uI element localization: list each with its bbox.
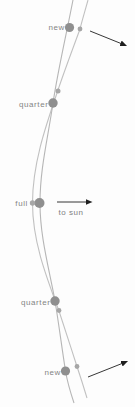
phase-label-quarter-bottom: quarter (21, 298, 51, 307)
earth-circle-full (35, 198, 45, 208)
phase-label-new-bottom: new (45, 368, 61, 377)
moon-phases-diagram: newquarterfullquarternewto sun (0, 0, 135, 407)
moon-dot-quarter (56, 89, 61, 94)
earth-circle-quarter (48, 98, 57, 107)
moon-dot-quarter (57, 308, 62, 313)
moon-dot-new (75, 364, 80, 369)
sun-direction-top-arrow-icon (90, 31, 121, 44)
earth-circle-new (65, 23, 74, 32)
phase-label-quarter-top: quarter (19, 100, 49, 109)
orbit-diagram-canvas: newquarterfullquarternewto sun (0, 0, 135, 407)
earth-circle-new (61, 366, 70, 375)
moon-dot-full (30, 200, 35, 205)
sun-direction-bottom-arrow-icon (88, 364, 122, 378)
earth-circle-quarter (50, 296, 59, 305)
to-sun-label: to sun (59, 208, 84, 217)
phase-label-full: full (15, 199, 28, 208)
moon-dot-new (78, 27, 83, 32)
phase-label-new-top: new (49, 23, 65, 32)
